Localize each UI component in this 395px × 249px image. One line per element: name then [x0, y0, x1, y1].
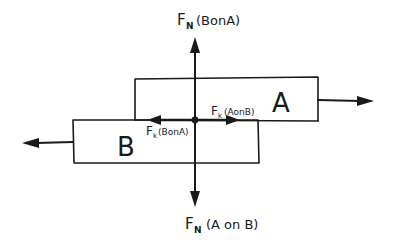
- center-point: [192, 117, 199, 124]
- applied-force-a-arrowhead: [357, 96, 374, 106]
- svg-text:F: F: [146, 124, 153, 138]
- svg-text:F: F: [185, 215, 194, 233]
- svg-text:(AonB): (AonB): [224, 107, 254, 117]
- normal-force-down-arrowhead: [190, 191, 200, 207]
- block-a-label: A: [272, 88, 290, 118]
- applied-force-b-arrow: [36, 142, 73, 143]
- free-body-diagram: A B F N (BonA) F N (A on B) F k (AonB) F…: [0, 0, 395, 249]
- svg-text:N: N: [194, 225, 202, 235]
- svg-text:(BonA): (BonA): [196, 13, 240, 28]
- svg-text:F: F: [211, 104, 218, 118]
- friction-b-on-a-label: F k (BonA): [146, 124, 189, 140]
- svg-text:F: F: [177, 11, 186, 29]
- block-b-label: B: [117, 132, 135, 162]
- svg-text:(A on B): (A on B): [206, 217, 258, 232]
- applied-force-a-arrow: [318, 100, 360, 101]
- normal-force-up-arrowhead: [190, 37, 200, 53]
- svg-text:(BonA): (BonA): [158, 127, 189, 137]
- applied-force-b-arrowhead: [22, 138, 39, 148]
- svg-text:N: N: [186, 21, 194, 31]
- normal-force-bottom-label: F N (A on B): [185, 215, 258, 235]
- normal-force-top-label: F N (BonA): [177, 11, 240, 31]
